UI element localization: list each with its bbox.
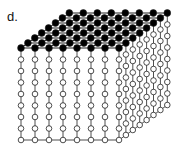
- open-node: [32, 114, 38, 120]
- open-node: [123, 98, 129, 104]
- open-node: [158, 73, 164, 79]
- filled-node: [80, 10, 87, 17]
- open-node: [18, 103, 24, 109]
- open-node: [116, 57, 122, 63]
- filled-node: [59, 15, 66, 22]
- open-node: [46, 126, 52, 132]
- open-node: [151, 78, 157, 84]
- open-node: [32, 91, 38, 97]
- filled-node: [46, 45, 53, 52]
- open-node: [116, 126, 122, 132]
- open-node: [88, 114, 94, 120]
- open-node: [88, 68, 94, 74]
- filled-node: [53, 40, 60, 47]
- open-node: [165, 56, 171, 62]
- filled-node: [123, 40, 130, 47]
- open-node: [144, 117, 150, 123]
- open-node: [102, 137, 108, 143]
- open-node: [116, 91, 122, 97]
- filled-node: [109, 40, 116, 47]
- open-node: [165, 45, 171, 51]
- open-node: [60, 80, 66, 86]
- open-node: [158, 84, 164, 90]
- filled-node: [102, 45, 109, 52]
- open-node: [137, 53, 143, 59]
- open-node: [130, 93, 136, 99]
- filled-node: [136, 20, 143, 27]
- filled-node: [32, 45, 39, 52]
- open-node: [144, 106, 150, 112]
- open-node: [32, 103, 38, 109]
- filled-node: [101, 25, 108, 32]
- open-node: [74, 57, 80, 63]
- open-node: [32, 57, 38, 63]
- open-node: [151, 101, 157, 107]
- filled-node: [60, 45, 67, 52]
- open-node: [144, 48, 150, 54]
- open-node: [18, 91, 24, 97]
- open-node: [130, 127, 136, 133]
- open-node: [137, 88, 143, 94]
- filled-node: [52, 30, 59, 37]
- open-node: [102, 126, 108, 132]
- open-node: [32, 68, 38, 74]
- open-node: [60, 57, 66, 63]
- open-node: [137, 122, 143, 128]
- open-node: [46, 68, 52, 74]
- filled-node: [136, 10, 143, 17]
- open-node: [130, 70, 136, 76]
- open-node: [46, 114, 52, 120]
- filled-node: [66, 30, 73, 37]
- open-node: [60, 126, 66, 132]
- filled-node: [73, 25, 80, 32]
- cubic-lattice-diagram: [0, 0, 179, 155]
- open-node: [130, 58, 136, 64]
- open-node: [144, 83, 150, 89]
- filled-node: [108, 10, 115, 17]
- open-node: [151, 32, 157, 38]
- open-node: [144, 60, 150, 66]
- filled-node: [129, 15, 136, 22]
- filled-node: [95, 40, 102, 47]
- open-node: [88, 57, 94, 63]
- open-node: [165, 68, 171, 74]
- open-node: [18, 80, 24, 86]
- open-node: [46, 91, 52, 97]
- open-node: [32, 126, 38, 132]
- filled-node: [108, 20, 115, 27]
- filled-node: [122, 20, 129, 27]
- filled-node: [115, 35, 122, 42]
- open-node: [102, 68, 108, 74]
- filled-node: [94, 10, 101, 17]
- open-node: [165, 91, 171, 97]
- filled-node: [45, 25, 52, 32]
- open-node: [32, 80, 38, 86]
- filled-node: [115, 25, 122, 32]
- open-node: [165, 79, 171, 85]
- open-node: [123, 63, 129, 69]
- open-node: [18, 137, 24, 143]
- open-node: [32, 137, 38, 143]
- filled-node: [59, 25, 66, 32]
- open-node: [60, 68, 66, 74]
- open-node: [151, 55, 157, 61]
- filled-node: [94, 20, 101, 27]
- open-node: [88, 103, 94, 109]
- filled-node: [66, 10, 73, 17]
- open-node: [46, 80, 52, 86]
- filled-node: [136, 30, 143, 37]
- open-node: [60, 137, 66, 143]
- filled-node: [116, 45, 123, 52]
- filled-node: [101, 15, 108, 22]
- filled-node: [87, 25, 94, 32]
- open-node: [123, 109, 129, 115]
- open-node: [165, 22, 171, 28]
- filled-node: [150, 10, 157, 17]
- open-node: [102, 57, 108, 63]
- filled-node: [74, 45, 81, 52]
- filled-node: [52, 20, 59, 27]
- open-node: [130, 104, 136, 110]
- open-node: [158, 50, 164, 56]
- open-node: [74, 137, 80, 143]
- filled-node: [80, 20, 87, 27]
